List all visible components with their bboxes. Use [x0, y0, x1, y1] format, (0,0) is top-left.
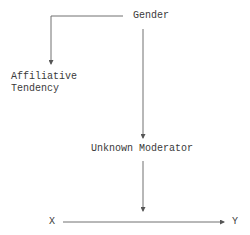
node-y: Y	[232, 216, 238, 228]
node-unknown-moderator: Unknown Moderator	[91, 143, 193, 155]
diagram-canvas: Gender Affiliative Tendency Unknown Mode…	[0, 0, 250, 235]
node-x: X	[49, 216, 55, 228]
node-gender: Gender	[133, 10, 169, 22]
diagram-edges	[0, 0, 250, 235]
edge-gender-to-affiliative	[51, 16, 123, 64]
node-affiliative-line2: Tendency	[11, 83, 59, 95]
node-affiliative-line1: Affiliative	[11, 71, 77, 83]
